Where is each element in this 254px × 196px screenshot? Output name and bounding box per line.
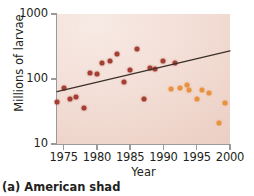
data-point	[200, 87, 205, 92]
data-point	[207, 91, 212, 96]
plot-area	[57, 14, 230, 144]
data-point	[114, 51, 119, 56]
x-tick-label: 1975	[49, 150, 77, 164]
data-point	[55, 99, 60, 104]
data-point	[127, 67, 132, 72]
x-tick-label: 2000	[216, 150, 244, 164]
data-point	[217, 121, 222, 126]
data-point	[94, 71, 99, 76]
data-point	[73, 94, 78, 99]
x-axis-title: Year	[57, 165, 230, 179]
y-axis-line	[56, 13, 57, 145]
y-tick-mark	[51, 143, 56, 144]
data-point	[68, 96, 73, 101]
data-point	[173, 61, 178, 66]
data-point	[160, 58, 165, 63]
data-point	[185, 82, 190, 87]
y-tick-label: 10	[0, 136, 48, 150]
data-point	[169, 87, 174, 92]
data-point	[152, 66, 157, 71]
data-point	[121, 79, 126, 84]
x-tick-label: 1980	[83, 150, 111, 164]
figure-caption: (a) American shad	[2, 180, 120, 194]
data-point	[88, 71, 93, 76]
data-point	[108, 58, 113, 63]
data-point	[100, 60, 105, 65]
x-tick-label: 1995	[182, 150, 210, 164]
y-tick-mark	[51, 78, 56, 79]
y-tick-mark	[51, 13, 56, 14]
data-point	[61, 86, 66, 91]
figure-american-shad: 100010010 197519801985199019952000 Milli…	[0, 0, 254, 196]
plot-texture	[57, 14, 230, 144]
data-point	[141, 96, 146, 101]
x-tick-label: 1985	[116, 150, 144, 164]
data-point	[223, 100, 228, 105]
x-tick-label: 1990	[149, 150, 177, 164]
data-point	[194, 96, 199, 101]
data-point	[178, 86, 183, 91]
data-point	[134, 46, 139, 51]
x-axis-line	[56, 144, 231, 145]
data-point	[81, 105, 86, 110]
y-axis-title: Millions of larvae	[12, 8, 26, 118]
data-point	[187, 87, 192, 92]
